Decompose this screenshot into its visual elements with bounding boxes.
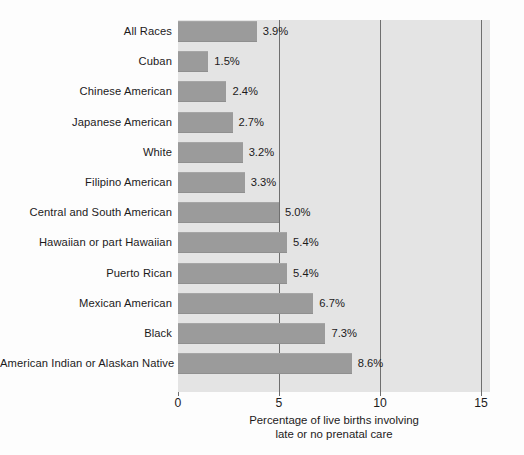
category-label-column: All RacesCubanChinese AmericanJapanese A…	[0, 20, 172, 392]
x-axis: 051015	[178, 392, 490, 412]
gridline-10	[380, 20, 381, 392]
bar	[178, 263, 287, 284]
x-tick-label: 15	[461, 396, 501, 410]
bar-value-label: 3.2%	[249, 146, 275, 158]
category-label: Cuban	[0, 55, 172, 67]
bar-value-label: 6.7%	[319, 297, 345, 309]
category-label: Filipino American	[0, 176, 172, 188]
x-tick-label: 0	[158, 396, 198, 410]
plot-inner: 3.9%1.5%2.4%2.7%3.2%3.3%5.0%5.4%5.4%6.7%…	[178, 20, 490, 392]
bar	[178, 202, 279, 223]
category-label: Chinese American	[0, 85, 172, 97]
bar	[178, 21, 257, 42]
bar	[178, 353, 352, 374]
bar-value-label: 3.9%	[263, 25, 289, 37]
category-label: All Races	[0, 25, 172, 37]
bar-value-label: 2.7%	[239, 116, 265, 128]
bar	[178, 112, 233, 133]
category-label: Japanese American	[0, 116, 172, 128]
category-label: Mexican American	[0, 297, 172, 309]
bar-value-label: 7.3%	[331, 327, 357, 339]
bar-value-label: 2.4%	[232, 85, 258, 97]
category-label: White	[0, 146, 172, 158]
x-tick-label: 10	[360, 396, 400, 410]
category-label: Black	[0, 327, 172, 339]
bar	[178, 51, 208, 72]
x-axis-caption: Percentage of live births involving late…	[178, 414, 490, 441]
bar-value-label: 5.4%	[293, 267, 319, 279]
x-axis-caption-line-1: Percentage of live births involving	[178, 414, 490, 428]
bar	[178, 293, 313, 314]
category-label: American Indian or Alaskan Native	[0, 357, 172, 369]
gridline-15	[481, 20, 482, 392]
category-label: Central and South American	[0, 206, 172, 218]
category-label: Puerto Rican	[0, 267, 172, 279]
bar-value-label: 5.4%	[293, 236, 319, 248]
bar-value-label: 1.5%	[214, 55, 240, 67]
x-axis-caption-line-2: late or no prenatal care	[178, 428, 490, 442]
bar	[178, 142, 243, 163]
plot-area: 3.9%1.5%2.4%2.7%3.2%3.3%5.0%5.4%5.4%6.7%…	[178, 20, 490, 392]
bar-value-label: 8.6%	[358, 357, 384, 369]
bar-value-label: 5.0%	[285, 206, 311, 218]
bar	[178, 172, 245, 193]
bar	[178, 232, 287, 253]
bar-chart-figure: All RacesCubanChinese AmericanJapanese A…	[0, 0, 524, 455]
bar	[178, 81, 226, 102]
bar-value-label: 3.3%	[251, 176, 277, 188]
bar	[178, 323, 325, 344]
x-tick-label: 5	[259, 396, 299, 410]
category-label: Hawaiian or part Hawaiian	[0, 236, 172, 248]
